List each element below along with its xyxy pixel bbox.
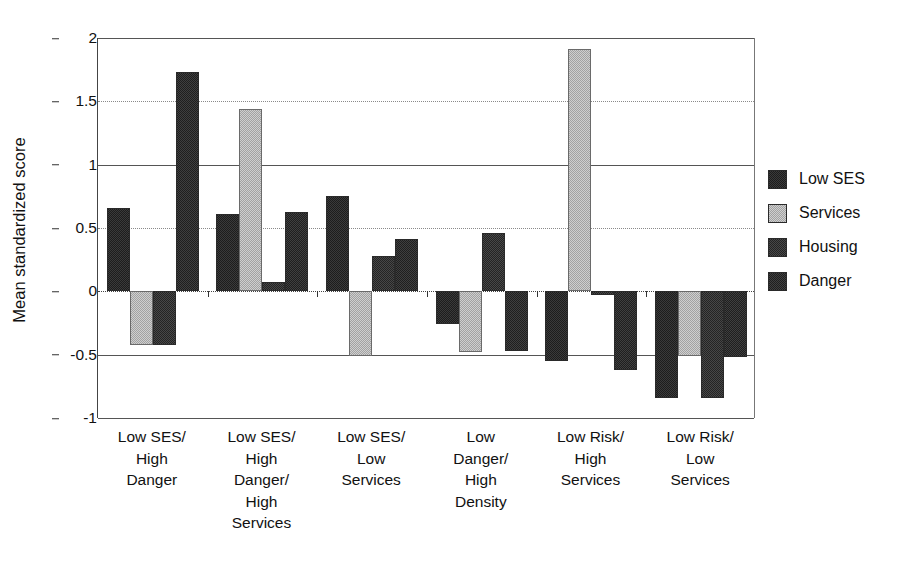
bar-low-ses: [545, 291, 568, 361]
y-tick-label: 0.5: [59, 220, 97, 236]
bar-housing: [372, 256, 395, 291]
bar-danger: [176, 72, 199, 291]
x-axis-categories: Low SES/HighDangerLow SES/HighDanger/Hig…: [97, 426, 755, 576]
plot-area: [97, 38, 755, 418]
bar-danger: [395, 239, 418, 291]
bar-group: [537, 38, 647, 418]
y-tick-mark: [52, 228, 59, 229]
bar-group: [646, 38, 756, 418]
bar-housing: [482, 233, 505, 291]
x-axis-tick: [317, 291, 318, 297]
y-tick-mark: [52, 101, 59, 102]
y-tick-mark: [52, 165, 59, 166]
bar-services: [678, 291, 701, 356]
x-category-label-line: Danger/: [426, 448, 536, 470]
x-axis-tick: [427, 291, 428, 297]
bar-danger: [724, 291, 747, 357]
bar-housing: [262, 282, 285, 291]
y-tick-mark: [52, 355, 59, 356]
x-category-label-line: High: [207, 448, 317, 470]
x-category-label: Low SES/LowServices: [316, 426, 426, 491]
x-category-label-line: High: [97, 448, 207, 470]
x-category-label-line: Low: [426, 426, 536, 448]
x-category-label: Low Risk/LowServices: [645, 426, 755, 491]
bar-housing: [701, 291, 724, 397]
x-category-label-line: Low Risk/: [536, 426, 646, 448]
x-category-label: Low SES/HighDanger: [97, 426, 207, 491]
x-category-label-line: Low: [645, 448, 755, 470]
bar-low-ses: [326, 196, 349, 291]
y-tick-label: 2: [59, 30, 97, 46]
x-category-label-line: High: [536, 448, 646, 470]
bar-housing: [591, 291, 614, 295]
y-tick-label: 1: [59, 157, 97, 173]
x-category-label-line: Services: [536, 469, 646, 491]
legend-item[interactable]: Low SES: [768, 162, 908, 196]
dark-swatch: [768, 238, 787, 257]
x-category-label-line: Services: [316, 469, 426, 491]
light-swatch: [768, 204, 787, 223]
x-category-label-line: Danger: [97, 469, 207, 491]
gridline--1: [98, 418, 754, 419]
bar-services: [349, 291, 372, 356]
x-category-label-line: Services: [207, 512, 317, 534]
x-category-label-line: High: [207, 491, 317, 513]
x-category-label-line: Low: [316, 448, 426, 470]
legend-item[interactable]: Danger: [768, 264, 908, 298]
x-category-label-line: Services: [645, 469, 755, 491]
x-category-label-line: Low Risk/: [645, 426, 755, 448]
y-axis-ticks: 21.510.50-0.5-1: [45, 38, 97, 418]
y-tick-mark: [52, 418, 59, 419]
x-category-label-line: Low SES/: [316, 426, 426, 448]
bar-danger: [505, 291, 528, 351]
y-tick-label: 0: [59, 284, 97, 300]
bar-group: [208, 38, 318, 418]
legend-item[interactable]: Services: [768, 196, 908, 230]
dark-swatch: [768, 170, 787, 189]
y-tick-mark: [52, 291, 59, 292]
legend-item-label: Housing: [799, 238, 858, 256]
legend-item-label: Services: [799, 204, 860, 222]
x-category-label: Low SES/HighDanger/HighServices: [207, 426, 317, 534]
legend: Low SESServicesHousingDanger: [768, 162, 908, 298]
x-axis-tick: [646, 291, 647, 297]
x-axis-tick: [208, 291, 209, 297]
bar-group: [98, 38, 208, 418]
bar-low-ses: [107, 208, 130, 292]
bar-danger: [285, 212, 308, 292]
y-axis-title-text: Mean standardized score: [10, 137, 29, 322]
x-category-label-line: High: [426, 469, 536, 491]
bar-services: [239, 109, 262, 291]
y-tick-label: -1: [59, 410, 97, 426]
y-axis-title: Mean standardized score: [6, 40, 32, 420]
y-tick-label: -0.5: [59, 347, 97, 363]
bar-group: [427, 38, 537, 418]
y-tick-mark: [52, 38, 59, 39]
legend-item-label: Low SES: [799, 170, 865, 188]
x-category-label: LowDanger/HighDensity: [426, 426, 536, 512]
bar-low-ses: [216, 214, 239, 291]
bar-services: [130, 291, 153, 344]
bar-chart-figure: Mean standardized score 21.510.50-0.5-1 …: [0, 0, 915, 587]
x-category-label: Low Risk/HighServices: [536, 426, 646, 491]
bar-services: [568, 49, 591, 291]
legend-item-label: Danger: [799, 272, 851, 290]
bar-danger: [614, 291, 637, 370]
x-category-label-line: Density: [426, 491, 536, 513]
bar-low-ses: [436, 291, 459, 324]
x-category-label-line: Danger/: [207, 469, 317, 491]
legend-item[interactable]: Housing: [768, 230, 908, 264]
bar-services: [459, 291, 482, 352]
dark-swatch: [768, 272, 787, 291]
bar-low-ses: [655, 291, 678, 397]
y-tick-label: 1.5: [59, 94, 97, 110]
x-axis-tick: [537, 291, 538, 297]
x-category-label-line: Low SES/: [207, 426, 317, 448]
x-category-label-line: Low SES/: [97, 426, 207, 448]
bar-housing: [153, 291, 176, 344]
bar-group: [317, 38, 427, 418]
